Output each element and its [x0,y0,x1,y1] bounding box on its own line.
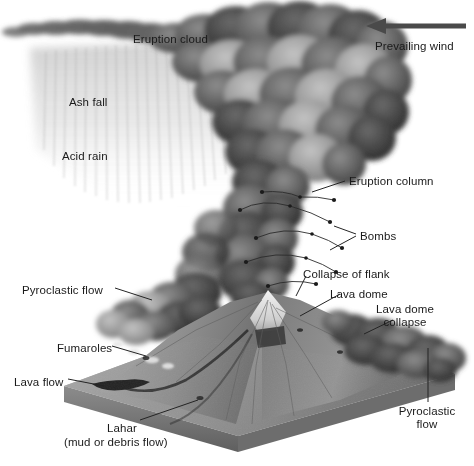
label-ash-fall: Ash fall [69,96,108,109]
label-collapse-of-flank: Collapse of flank [303,268,390,281]
label-pyroclastic-flow-left: Pyroclastic flow [22,284,103,297]
label-lava-flow: Lava flow [14,376,63,389]
volcano-illustration [0,0,474,466]
label-lahar-subtitle: (mud or debris flow) [64,436,168,449]
label-acid-rain: Acid rain [62,150,108,163]
label-lava-dome-collapse: Lava dome collapse [369,303,441,328]
label-eruption-column: Eruption column [349,175,434,188]
label-bombs: Bombs [360,230,396,243]
label-prevailing-wind: Prevailing wind [375,40,454,53]
label-lahar: Lahar [107,422,137,435]
label-fumaroles: Fumaroles [57,342,112,355]
volcano-hazards-figure: Eruption cloud Prevailing wind Ash fall … [0,0,474,466]
label-lava-dome: Lava dome [330,288,388,301]
label-pyroclastic-flow-right: Pyroclastic flow [391,405,463,430]
label-eruption-cloud: Eruption cloud [133,33,208,46]
